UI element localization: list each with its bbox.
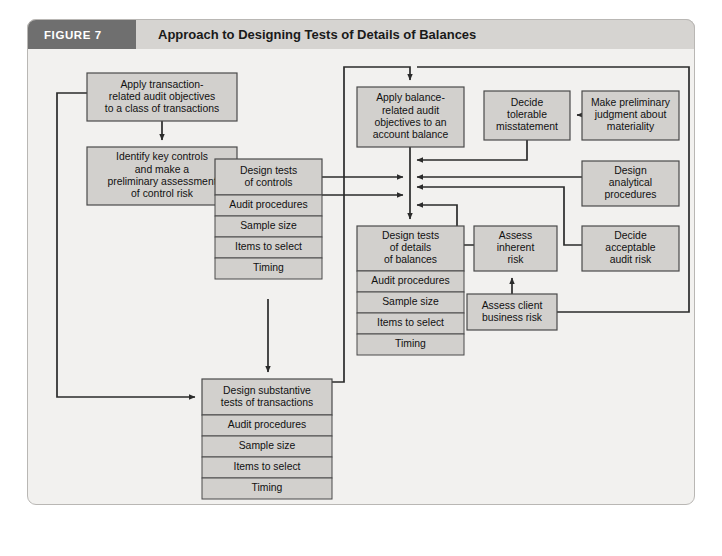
node-design-substantive-tests: Design substantivetests of transactionsA… [202,379,332,499]
node-label-decide-tolerable-misstatement: misstatement [496,121,558,132]
node-subitem-label-design-tests-of-controls-3: Timing [253,262,284,273]
edge-loop-left-outer [57,93,195,397]
node-label-identify-key-controls: of control risk [131,188,194,199]
node-label-identify-key-controls: Identify key controls [116,151,208,162]
node-label-assess-client-business-risk: Assess client [482,300,543,311]
node-subitem-label-design-substantive-tests-2: Items to select [234,461,301,472]
figure-title: Approach to Designing Tests of Details o… [136,20,694,49]
node-subitem-label-design-substantive-tests-3: Timing [252,482,283,493]
figure-header: FIGURE 7 Approach to Designing Tests of … [27,19,695,49]
node-label-decide-acceptable-audit-risk: acceptable [605,242,655,253]
node-subitem-label-design-tests-of-details-3: Timing [395,338,426,349]
node-label-decide-tolerable-misstatement: Decide [511,97,544,108]
node-label-design-analytical-procedures: procedures [605,189,657,200]
node-label-design-analytical-procedures: Design [614,165,647,176]
figure-page: FIGURE 7 Approach to Designing Tests of … [0,0,722,556]
node-assess-client-business-risk: Assess clientbusiness risk [467,294,557,330]
node-subitem-label-design-tests-of-controls-0: Audit procedures [229,199,308,210]
node-label-design-substantive-tests: Design substantive [223,385,311,396]
node-subitem-label-design-tests-of-controls-2: Items to select [235,241,302,252]
node-label-identify-key-controls: preliminary assessment [107,176,216,187]
node-label-design-tests-of-controls: Design tests [240,165,297,176]
node-subitem-label-design-substantive-tests-1: Sample size [239,440,296,451]
node-subitem-label-design-substantive-tests-0: Audit procedures [228,419,307,430]
node-label-apply-transaction-related: Apply transaction- [120,79,203,90]
node-label-apply-balance-related: Apply balance- [376,92,445,103]
node-label-apply-balance-related: related audit [382,105,439,116]
node-subitem-label-design-tests-of-controls-1: Sample size [240,220,297,231]
node-label-design-tests-of-details: of balances [384,254,437,265]
node-label-apply-balance-related: objectives to an [374,117,446,128]
node-label-make-preliminary-judgment: judgment about [594,109,667,120]
node-label-design-substantive-tests: tests of transactions [221,397,313,408]
node-subitem-label-design-tests-of-details-1: Sample size [382,296,439,307]
node-apply-balance-related: Apply balance-related auditobjectives to… [357,87,464,147]
node-label-design-tests-of-controls: of controls [245,177,293,188]
node-label-design-tests-of-details: Design tests [382,230,439,241]
node-make-preliminary-judgment: Make preliminaryjudgment aboutmaterialit… [582,91,679,140]
node-apply-transaction-related: Apply transaction-related audit objectiv… [87,73,237,121]
node-label-decide-acceptable-audit-risk: Decide [614,230,647,241]
node-subitem-label-design-tests-of-details-2: Items to select [377,317,444,328]
node-label-design-analytical-procedures: analytical [609,177,652,188]
figure-tag: FIGURE 7 [28,20,136,49]
node-decide-tolerable-misstatement: Decidetolerablemisstatement [484,91,570,140]
node-label-make-preliminary-judgment: Make preliminary [591,97,671,108]
node-label-identify-key-controls: and make a [135,164,190,175]
node-assess-inherent-risk: Assessinherentrisk [474,226,557,271]
node-design-tests-of-details: Design testsof detailsof balancesAudit p… [357,226,464,355]
node-label-design-tests-of-details: of details [390,242,432,253]
node-label-apply-transaction-related: related audit objectives [109,91,215,102]
flowchart-diagram: Apply transaction-related audit objectiv… [27,49,695,505]
node-design-analytical-procedures: Designanalyticalprocedures [582,161,679,206]
node-layer: Apply transaction-related audit objectiv… [87,73,679,499]
node-label-assess-inherent-risk: Assess [499,230,533,241]
node-decide-acceptable-audit-risk: Decideacceptableaudit risk [582,226,679,271]
node-label-assess-client-business-risk: business risk [482,312,543,323]
node-label-apply-balance-related: account balance [373,129,449,140]
node-label-apply-transaction-related: to a class of transactions [105,103,219,114]
node-label-decide-tolerable-misstatement: tolerable [507,109,547,120]
node-label-assess-inherent-risk: risk [507,254,524,265]
node-label-assess-inherent-risk: inherent [497,242,535,253]
node-design-tests-of-controls: Design testsof controlsAudit proceduresS… [215,159,322,279]
node-label-make-preliminary-judgment: materiality [607,121,655,132]
node-subitem-label-design-tests-of-details-0: Audit procedures [371,275,450,286]
node-label-decide-acceptable-audit-risk: audit risk [610,254,652,265]
